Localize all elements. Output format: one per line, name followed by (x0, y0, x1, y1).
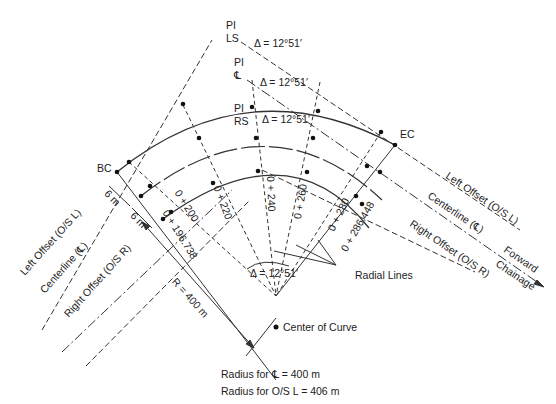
delta-ls-label: Δ = 12°51′ (254, 38, 302, 49)
curve-offset-diagram: PI LS Δ = 12°51′ PI ℄ Δ = 12°51′ PI RS Δ… (0, 0, 556, 404)
delta-cl-label: Δ = 12°51′ (260, 77, 308, 88)
radial-lines-label: Radial Lines (355, 270, 413, 281)
ec-label: EC (400, 129, 415, 140)
right-offset-forward-tangent (262, 170, 475, 272)
delta-rs-label: Δ = 12°51′ (262, 114, 310, 125)
radius-osl-note: Radius for O/S L = 406 m (221, 386, 339, 397)
pi-ls-label-2: LS (226, 33, 239, 44)
centerline-back-tangent (62, 190, 232, 352)
diagram-lines (0, 0, 556, 404)
delta-center-label: Δ = 12°51′ (250, 268, 298, 279)
station-points (115, 102, 398, 330)
center-of-curve-point (274, 325, 279, 330)
pi-ls-label-1: PI (226, 20, 236, 31)
radius-dimension-line (142, 222, 254, 348)
radius-cl-note: Radius for ℄ = 400 m (221, 369, 320, 380)
pi-cl-label-2: ℄ (234, 70, 241, 81)
left-offset-arc (117, 111, 395, 172)
pi-rs-label-1: PI (234, 103, 244, 114)
pi-rs-label-2: RS (234, 116, 249, 127)
radial-leader-2 (296, 245, 336, 265)
station-240: 0 + 240 (266, 176, 278, 212)
radius-extension (246, 318, 276, 356)
center-of-curve-label: Center of Curve (283, 322, 357, 333)
pi-cl-label-1: PI (234, 57, 244, 68)
centerline-forward-tangent (247, 80, 537, 282)
bc-label: BC (97, 163, 112, 174)
